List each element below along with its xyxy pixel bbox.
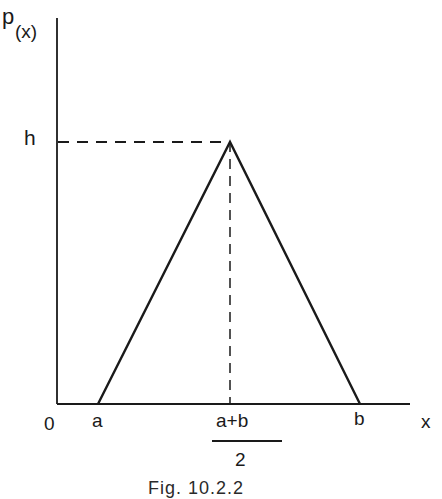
x-tick-a: a xyxy=(92,411,103,430)
y-axis-label: p xyxy=(2,6,14,28)
x-tick-midpoint-denominator: 2 xyxy=(235,450,246,469)
x-tick-midpoint-numerator: a+b xyxy=(216,411,248,430)
x-tick-origin: 0 xyxy=(44,414,55,433)
y-tick-h: h xyxy=(24,127,36,148)
figure-caption: Fig. 10.2.2 xyxy=(148,478,244,499)
triangular-pdf-curve xyxy=(98,142,360,404)
x-axis-label: x xyxy=(421,412,431,431)
x-tick-b: b xyxy=(354,409,365,428)
y-axis-label-subscript: (x) xyxy=(15,22,37,41)
